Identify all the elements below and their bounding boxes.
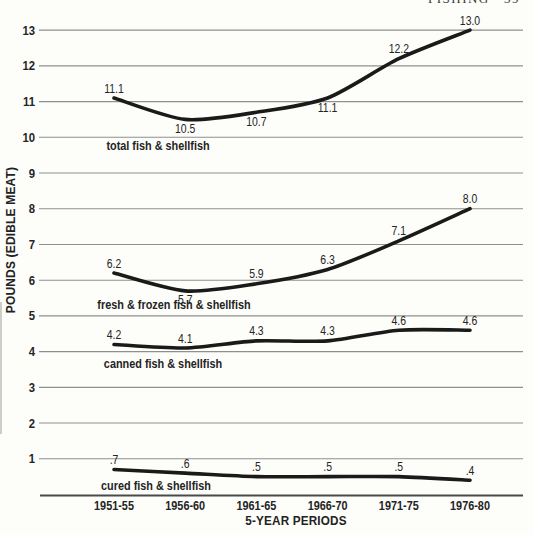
data-label: 11.1 [318,101,338,114]
data-label: 13.0 [460,14,480,27]
y-tick-label: 10 [22,130,35,145]
series-label: total fish & shellfish [106,138,209,152]
data-label: .5 [252,460,261,473]
data-label: 10.5 [175,122,195,135]
data-label: 4.3 [249,325,264,338]
data-label: .5 [323,460,332,473]
data-label: .5 [394,460,403,473]
x-tick-label: 1976-80 [450,498,490,512]
data-label: 4.6 [392,314,407,327]
x-tick-label: 1956-60 [165,498,205,512]
data-label: 5.9 [249,268,264,281]
y-tick-label: 9 [29,166,35,181]
series-line-2 [114,330,470,348]
x-tick-label: 1971-75 [379,498,419,512]
series-label: cured fish & shellfish [101,478,211,492]
series-label: fresh & frozen fish & shellfish [97,297,250,311]
page: FISHING 39 123456789101112131951-551956-… [0,0,533,535]
fish-consumption-line-chart: 123456789101112131951-551956-601961-6519… [0,0,533,535]
y-axis-title: POUNDS (EDIBLE MEAT) [3,148,19,332]
y-tick-label: 3 [29,380,35,395]
x-tick-label: 1951-55 [94,498,134,512]
scan-edge-artifact [0,302,2,434]
y-tick-label: 7 [29,237,35,252]
data-label: 4.1 [178,332,193,345]
data-label: 6.3 [320,253,335,266]
y-tick-label: 4 [29,344,35,359]
x-tick-label: 1966-70 [308,498,348,512]
y-tick-label: 2 [29,416,35,431]
y-tick-label: 5 [29,309,35,324]
y-tick-label: 6 [29,273,35,288]
y-tick-label: 11 [23,94,35,109]
data-label: 6.2 [107,257,122,270]
x-tick-label: 1961-65 [236,498,276,512]
data-label: 4.6 [463,314,478,327]
data-label: 12.2 [389,43,409,56]
data-label: 11.1 [104,82,124,95]
x-axis-title: 5-YEAR PERIODS [245,513,346,528]
data-label: 7.1 [392,225,407,238]
y-tick-label: 12 [22,59,35,74]
series-label: canned fish & shellfish [104,356,222,370]
data-label: 10.7 [246,115,266,128]
data-label: 4.2 [107,328,122,341]
data-label: 4.3 [320,325,335,338]
y-tick-label: 13 [22,23,35,38]
data-label: .6 [181,457,190,470]
y-tick-label: 8 [29,202,35,217]
data-label: 8.0 [463,193,478,206]
data-label: .4 [466,464,475,477]
series-line-0 [114,30,470,120]
y-tick-label: 1 [29,452,35,467]
series-line-1 [114,209,470,291]
data-label: .7 [110,453,119,466]
